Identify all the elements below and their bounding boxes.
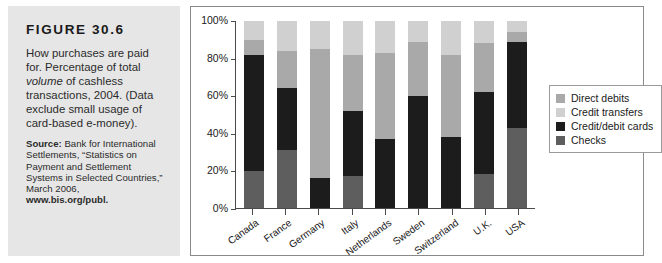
bar-segment[interactable]	[244, 171, 264, 208]
bar-segment[interactable]	[343, 21, 363, 55]
caption-italic-word: volume	[26, 75, 63, 87]
bar-segment[interactable]	[408, 42, 428, 96]
bar-column[interactable]	[244, 21, 264, 208]
legend-item[interactable]: Direct debits	[556, 91, 653, 105]
bar-segment[interactable]	[244, 40, 264, 55]
bar-segment[interactable]	[343, 111, 363, 176]
source-label: Source:	[26, 138, 62, 149]
legend-swatch-icon	[556, 136, 565, 145]
bar-segment[interactable]	[507, 21, 527, 32]
source-url: www.bis.org/publ.	[26, 194, 108, 205]
bar-segment[interactable]	[507, 32, 527, 41]
bar-segment[interactable]	[310, 21, 330, 49]
bar-segment[interactable]	[507, 128, 527, 208]
legend-swatch-icon	[556, 108, 565, 117]
legend-swatch-icon	[556, 122, 565, 131]
figure-number-label: FIGURE 30.6	[26, 22, 166, 37]
legend-label: Credit/debit cards	[571, 120, 653, 132]
bar-segment[interactable]	[375, 139, 395, 208]
x-axis-labels: CanadaFranceGermanyItalyNetherlandsSwede…	[235, 217, 535, 263]
legend-label: Credit transfers	[571, 106, 643, 118]
bar-segment[interactable]	[441, 21, 461, 55]
legend-item[interactable]: Credit/debit cards	[556, 119, 653, 133]
legend-swatch-icon	[556, 94, 565, 103]
bar-segment[interactable]	[244, 55, 264, 171]
legend-item[interactable]: Credit transfers	[556, 105, 653, 119]
y-axis-tick-label: 40%	[207, 127, 228, 139]
y-axis-tick-label: 100%	[201, 14, 228, 26]
bar-segment[interactable]	[441, 55, 461, 137]
x-axis-tick-mark	[452, 209, 453, 215]
bar-segment[interactable]	[244, 21, 264, 40]
legend-label: Checks	[571, 134, 606, 146]
x-axis-tick-mark	[385, 209, 386, 215]
plot-wrapper: 100%80%60%40%20%0% CanadaFranceGermanyIt…	[235, 21, 535, 209]
bar-segment[interactable]	[474, 174, 494, 208]
x-axis-tick-mark	[352, 209, 353, 215]
bar-column[interactable]	[408, 21, 428, 208]
legend-label: Direct debits	[571, 92, 629, 104]
legend-item[interactable]: Checks	[556, 133, 653, 147]
bar-column[interactable]	[507, 21, 527, 208]
bar-segment[interactable]	[277, 21, 297, 51]
bar-segment[interactable]	[474, 21, 494, 43]
bar-column[interactable]	[343, 21, 363, 208]
x-axis-tick-mark	[318, 209, 319, 215]
x-axis-ticks	[235, 209, 535, 215]
bar-segment[interactable]	[408, 96, 428, 208]
y-axis-tick-label: 20%	[207, 164, 228, 176]
x-axis-tick-mark	[252, 209, 253, 215]
bar-series-group	[236, 21, 535, 208]
bar-segment[interactable]	[375, 21, 395, 53]
bar-segment[interactable]	[277, 88, 297, 150]
x-axis-tick-mark	[418, 209, 419, 215]
bar-segment[interactable]	[474, 92, 494, 174]
y-axis-tick-label: 60%	[207, 89, 228, 101]
x-axis-tick-mark	[485, 209, 486, 215]
bar-column[interactable]	[277, 21, 297, 208]
bar-segment[interactable]	[310, 178, 330, 208]
caption-part-1: How purchases are paid for. Percentage o…	[26, 47, 149, 73]
bar-segment[interactable]	[343, 55, 363, 111]
bar-segment[interactable]	[474, 43, 494, 92]
bar-segment[interactable]	[507, 42, 527, 128]
bar-segment[interactable]	[277, 150, 297, 208]
bar-segment[interactable]	[441, 137, 461, 208]
chart-legend: Direct debitsCredit transfersCredit/debi…	[549, 85, 662, 153]
bar-column[interactable]	[474, 21, 494, 208]
bar-segment[interactable]	[277, 51, 297, 88]
bar-segment[interactable]	[343, 176, 363, 208]
y-axis-tick-label: 80%	[207, 52, 228, 64]
figure-source-text: Source: Bank for International Settlemen…	[26, 138, 164, 206]
figure-caption-panel: FIGURE 30.6 How purchases are paid for. …	[8, 6, 180, 256]
bar-segment[interactable]	[375, 53, 395, 139]
figure-caption-text: How purchases are paid for. Percentage o…	[26, 46, 161, 130]
bar-segment[interactable]	[408, 21, 428, 42]
x-axis-tick-mark	[285, 209, 286, 215]
plot-area: 100%80%60%40%20%0%	[235, 21, 535, 209]
bar-column[interactable]	[441, 21, 461, 208]
y-axis-tick-label: 0%	[213, 202, 228, 214]
bar-segment[interactable]	[310, 49, 330, 178]
bar-column[interactable]	[375, 21, 395, 208]
bar-column[interactable]	[310, 21, 330, 208]
x-axis-tick-mark	[518, 209, 519, 215]
chart-panel: 100%80%60%40%20%0% CanadaFranceGermanyIt…	[190, 6, 644, 256]
